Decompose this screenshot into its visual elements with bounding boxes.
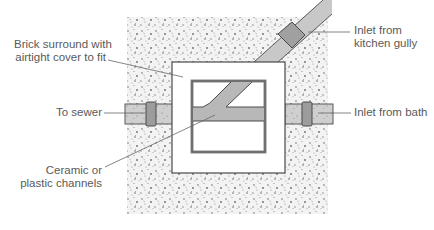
label-ceramic-line2: plastic channels (20, 177, 102, 190)
label-brick-surround-line1: Brick surround with (14, 38, 106, 51)
label-kitchen-line2: kitchen gully (354, 37, 417, 50)
sewer-pipe-joint (146, 102, 156, 126)
label-ceramic-line1: Ceramic or (20, 164, 102, 177)
label-kitchen-inlet: Inlet from kitchen gully (354, 24, 417, 50)
label-bath-inlet: Inlet from bath (354, 106, 428, 119)
label-kitchen-line1: Inlet from (354, 24, 417, 37)
label-to-sewer: To sewer (40, 106, 102, 119)
bath-inlet-pipe (285, 102, 333, 126)
bath-pipe-joint (302, 102, 312, 126)
label-brick-surround: Brick surround with airtight cover to fi… (14, 38, 106, 64)
label-ceramic-channels: Ceramic or plastic channels (20, 164, 102, 190)
label-brick-surround-line2: airtight cover to fit (14, 51, 106, 64)
sewer-outlet-pipe (125, 102, 173, 126)
